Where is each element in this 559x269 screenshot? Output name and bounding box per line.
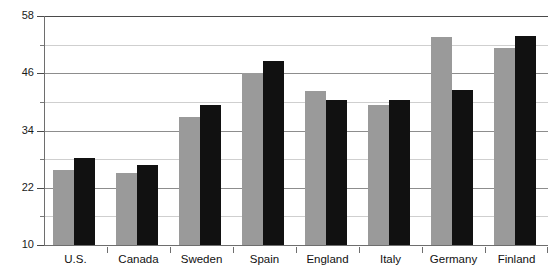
- bar: [452, 90, 473, 245]
- y-axis-tick-minor: [40, 45, 44, 46]
- bar: [179, 117, 200, 245]
- y-axis-tick: [37, 131, 44, 132]
- y-axis-tick-minor: [40, 216, 44, 217]
- y-axis-tick-label: 34: [0, 125, 34, 136]
- x-axis-tick-label: Spain: [233, 253, 296, 267]
- x-axis-tick: [233, 247, 234, 253]
- x-axis-line: [44, 245, 548, 246]
- x-axis-tick-label: U.S.: [44, 253, 107, 267]
- x-axis-tick: [485, 247, 486, 253]
- bar: [494, 48, 515, 245]
- x-axis-tick-label: England: [296, 253, 359, 267]
- bar-group: [44, 16, 107, 245]
- plot-area: [44, 16, 548, 245]
- x-axis-labels: U.S.CanadaSwedenSpainEnglandItalyGermany…: [44, 247, 548, 269]
- x-axis-tick-label: Canada: [107, 253, 170, 267]
- y-axis-labels: 1022344658: [0, 0, 34, 269]
- bar: [242, 73, 263, 245]
- y-axis-tick-label: 22: [0, 182, 34, 193]
- bar: [116, 173, 137, 245]
- x-axis-tick: [422, 247, 423, 253]
- x-axis-tick-label: Finland: [485, 253, 548, 267]
- y-axis-tick-minor: [40, 102, 44, 103]
- bar-group: [485, 16, 548, 245]
- bar-group: [422, 16, 485, 245]
- bar: [200, 105, 221, 245]
- bar-chart: 1022344658 U.S.CanadaSwedenSpainEnglandI…: [0, 0, 559, 269]
- y-axis-tick: [37, 245, 44, 246]
- bar-group: [233, 16, 296, 245]
- bar: [74, 158, 95, 245]
- y-axis-line: [44, 16, 45, 246]
- bar: [53, 170, 74, 245]
- bar-group: [170, 16, 233, 245]
- bar: [137, 165, 158, 245]
- x-axis-tick-label: Germany: [422, 253, 485, 267]
- bar: [263, 61, 284, 245]
- x-axis-tick: [107, 247, 108, 253]
- y-axis-tick: [37, 16, 44, 17]
- y-axis-tick: [37, 188, 44, 189]
- bar: [368, 105, 389, 245]
- bar-group: [359, 16, 422, 245]
- bar: [305, 91, 326, 245]
- x-axis-tick-label: Italy: [359, 253, 422, 267]
- y-axis-tick-minor: [40, 159, 44, 160]
- x-axis-tick: [296, 247, 297, 253]
- x-axis-tick: [170, 247, 171, 253]
- bar-group: [107, 16, 170, 245]
- bar: [515, 36, 536, 245]
- y-axis-tick-label: 46: [0, 67, 34, 78]
- x-axis-tick: [547, 247, 548, 253]
- y-axis-tick-label: 58: [0, 10, 34, 21]
- x-axis-tick: [359, 247, 360, 253]
- bar: [389, 100, 410, 245]
- x-axis-tick-label: Sweden: [170, 253, 233, 267]
- bar: [431, 37, 452, 245]
- y-axis-tick: [37, 73, 44, 74]
- y-axis-tick-label: 10: [0, 239, 34, 250]
- bar-group: [296, 16, 359, 245]
- bar: [326, 100, 347, 245]
